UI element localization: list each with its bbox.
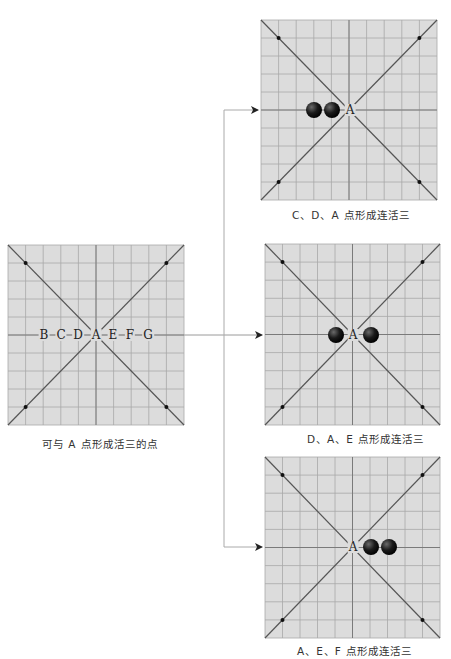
point-label-b: B bbox=[39, 329, 50, 341]
point-label-a: A bbox=[91, 329, 102, 341]
result-caption-aef: A、E、F 点形成连活三 bbox=[297, 643, 412, 658]
source-board: B C D A E F G bbox=[8, 245, 184, 425]
result-board-dae: A bbox=[265, 244, 440, 425]
black-stone-e bbox=[363, 539, 379, 555]
point-label-a: A bbox=[348, 329, 359, 341]
result-caption-cda: C、D、A 点形成连活三 bbox=[292, 207, 410, 222]
result-board-aef: A bbox=[265, 457, 440, 638]
black-stone-c bbox=[306, 102, 322, 118]
black-stone-e bbox=[363, 327, 379, 343]
point-label-a: A bbox=[348, 541, 359, 553]
point-label-f: F bbox=[125, 329, 135, 341]
result-caption-dae: D、A、E 点形成连活三 bbox=[307, 431, 424, 446]
point-label-e: E bbox=[108, 329, 119, 341]
result-board-cda: A bbox=[261, 20, 437, 200]
point-label-g: G bbox=[142, 329, 154, 341]
black-stone-f bbox=[381, 539, 397, 555]
black-stone-d bbox=[328, 327, 344, 343]
black-stone-d bbox=[324, 102, 340, 118]
source-caption: 可与 A 点形成活三的点 bbox=[42, 436, 158, 451]
point-label-c: C bbox=[55, 329, 66, 341]
point-label-d: D bbox=[72, 329, 84, 341]
point-label-a: A bbox=[345, 104, 356, 116]
